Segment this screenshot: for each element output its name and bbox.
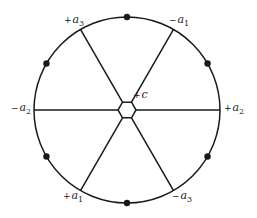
dot-330deg: [204, 153, 210, 159]
dot-150deg: [43, 60, 49, 66]
dot-210deg: [43, 153, 49, 159]
spoke-300deg: [132, 118, 174, 191]
label-pos-a3: +a3: [64, 14, 84, 25]
center-hexagon: [118, 102, 136, 118]
dot-270deg: [124, 200, 130, 206]
label-neg-a1: −a1: [169, 14, 189, 25]
root-system-diagram: [0, 0, 257, 218]
label-neg-a3: −a3: [172, 190, 192, 201]
label-pos-a1: +a1: [63, 190, 83, 201]
dot-90deg: [124, 14, 130, 20]
label-neg-a2: −a2: [11, 102, 31, 113]
spoke-240deg: [81, 118, 123, 191]
dot-30deg: [204, 60, 210, 66]
spoke-120deg: [81, 29, 123, 102]
label-pos-a2: +a2: [224, 102, 244, 113]
label-center-c: +c: [133, 89, 148, 100]
